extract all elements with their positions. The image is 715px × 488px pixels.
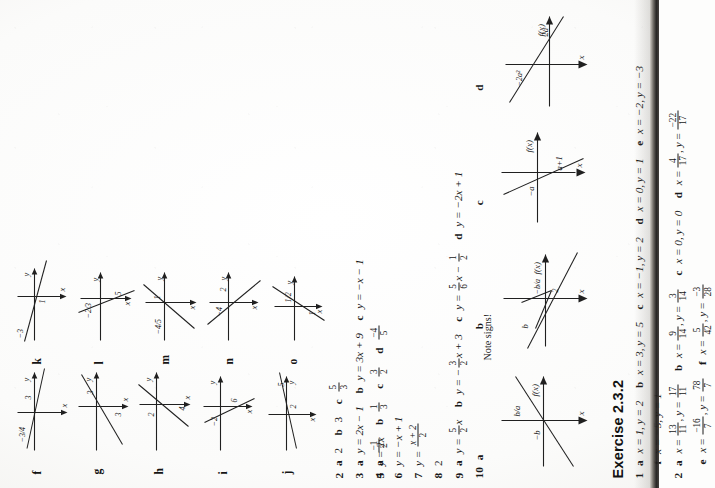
svg-text:y: y [153,276,163,281]
answer-row-2: 2 a 2 b 3 c 53 [328,259,348,478]
graph-k-label: k [30,358,42,364]
svg-text:f(x): f(x) [523,140,533,153]
graph-j-label: j [280,470,292,474]
exercise-row-2-cont: e x = −167, y = 787 f x = 542, y = −328 [692,8,712,464]
fraction-neg22-17: −2217 [668,110,688,129]
svg-text:−a: −a [525,186,535,196]
svg-text:x: x [186,305,196,310]
svg-text:−3/4: −3/4 [17,426,26,442]
fraction-neg16-7: −167 [692,416,712,435]
svg-text:x: x [575,289,585,294]
svg-text:x: x [248,305,258,310]
graph-h: h y x 2 4 [136,364,194,456]
graph-i-label: i [216,471,228,474]
svg-text:f(x): f(x) [531,262,541,275]
answer-row-8: 8 2 [430,8,445,478]
book-gutter [650,0,659,488]
graph-j: j y x 5 2 [264,364,320,456]
svg-text:x: x [121,301,131,306]
svg-text:x: x [58,403,68,408]
svg-text:2a: 2a [539,28,549,37]
svg-text:a+1: a+1 [553,156,563,170]
column-left: 5 y = 2x 6 y = −x + 1 7 y = x + 22 8 2 9… [372,8,715,478]
svg-text:−2: −2 [209,417,218,426]
graph-o: o y x 1/2 1 [270,254,328,346]
svg-text:y: y [285,380,295,385]
graph-g: g y x 3 3 [74,364,132,456]
svg-text:x: x [119,397,129,402]
svg-text:−b: −b [531,430,541,440]
svg-text:f(x): f(x) [529,384,539,397]
answer-row-3: 3 a y = 2x − 1 b y = 3x + 9 c y = −x − 1 [351,259,366,478]
graph-10c: f(x) x −a a+1 [491,118,595,228]
svg-text:1: 1 [37,299,46,303]
svg-text:y: y [20,272,30,277]
svg-text:y: y [82,377,92,382]
fraction-78-7: 787 [692,378,712,391]
svg-text:y: y [206,380,216,385]
graph-o-label: o [286,358,298,364]
exercise-heading: Exercise 2.3.2 [609,8,625,478]
graph-10b: f(x) x b −b/a 2 [491,240,595,352]
svg-text:2: 2 [550,288,559,292]
graph-n-label: n [222,358,234,364]
fraction-9-14: 914 [668,326,688,339]
graph-l: l y x −2/3 5 [76,254,136,346]
fraction-4-17: 417 [668,153,688,166]
fraction-5-42: 542 [692,323,712,336]
svg-text:−b/a: −b/a [532,278,541,294]
svg-text:b/a: b/a [511,405,521,416]
svg-text:x: x [573,163,583,168]
graph-10a: f(x) x −b b/a [491,362,595,472]
svg-text:5: 5 [113,291,122,295]
graph-m-label: m [158,354,170,364]
svg-text:x: x [56,287,66,292]
svg-text:x: x [306,417,316,422]
graph-10d: f(x) x −2a² 2a [491,2,595,112]
fraction-13-11: 1311 [668,422,688,435]
svg-text:y: y [142,377,152,382]
svg-text:−3: −3 [15,329,24,338]
fraction-17-11: 1711 [668,384,688,397]
answer-row-5: 5 y = 2x [372,8,387,478]
svg-text:3: 3 [113,412,122,417]
svg-text:y: y [89,277,99,282]
svg-text:2: 2 [288,404,297,408]
answer-row-9: 9 a y = 52x b y = −32x + 3 c y = 56x − 1… [448,8,468,478]
graph-i: i y x −2 6 [200,364,258,456]
graph-note-signs: Note signs! [481,313,492,360]
fraction-neg3-28: −328 [692,284,712,298]
exercise-row-2: 2 a x = 1311, y = 1711 b x = 914, y = 31… [668,8,688,478]
svg-text:1/2: 1/2 [283,292,292,302]
svg-text:x: x [181,395,191,400]
graph-n: n y x 2 −4 [206,254,264,346]
svg-text:x: x [243,409,253,414]
fraction-3-2-b: 32 [448,358,468,367]
graph-l-label: l [92,361,104,364]
fraction-x-plus-2-over-2: x + 22 [408,423,428,447]
svg-text:y: y [217,276,227,281]
svg-text:3: 3 [85,390,94,395]
svg-text:y: y [283,280,293,285]
svg-text:6: 6 [229,398,238,402]
svg-text:−2/3: −2/3 [83,302,92,318]
answer-row-6: 6 y = −x + 1 [390,8,405,478]
svg-text:1: 1 [307,311,316,315]
answer-row-10: 10 a b c d [471,8,486,478]
svg-text:−4: −4 [214,307,223,316]
svg-text:b: b [519,324,529,328]
fraction-5-2: 52 [448,425,468,434]
svg-text:y: y [20,377,30,382]
svg-text:2: 2 [218,287,227,291]
svg-text:4: 4 [177,406,186,410]
svg-text:5: 5 [276,382,285,386]
svg-text:2: 2 [146,412,155,416]
svg-text:−4/5: −4/5 [153,318,162,334]
graph-f: f y x 3 −3/4 [14,364,70,456]
graph-k: k y x −3 1 [14,254,72,346]
fraction-1-2: 12 [448,253,468,262]
book-gutter-shadow [634,0,650,488]
svg-text:1: 1 [152,295,161,299]
graph-m: m y x −4/5 1 [142,254,200,346]
exercise-block: Exercise 2.3.2 1 a x = 1, y = 2 b x = 3,… [609,8,712,478]
